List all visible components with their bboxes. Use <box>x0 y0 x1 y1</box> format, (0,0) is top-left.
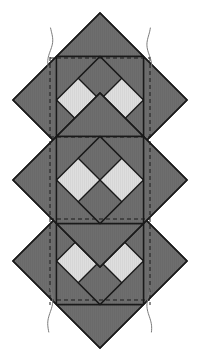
quilt-diagram-svg <box>0 0 201 361</box>
quilt-diagram-canvas <box>0 0 201 361</box>
